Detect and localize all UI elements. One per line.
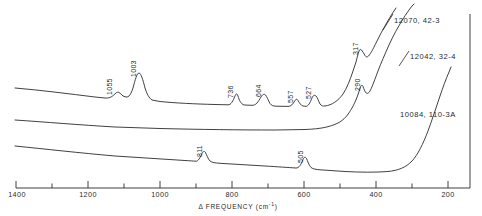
leader-line-12070-42-3 — [383, 14, 393, 30]
spectra-plot-area — [0, 0, 482, 216]
peak-label-317: 317 — [352, 42, 359, 55]
xtick-label-1000: 1000 — [151, 190, 169, 199]
leader-line-12042-32-4 — [399, 51, 409, 66]
peak-label-736: 736 — [227, 85, 234, 98]
peak-label-664: 664 — [255, 84, 262, 97]
trace-label-12042-32-4: 12042, 32-4 — [410, 52, 456, 61]
trace-label-10084-110-3a: 10084, 110-3A — [400, 110, 456, 119]
x-axis-title-text: Δ FREQUENCY (cm — [198, 203, 268, 210]
xtick-label-800: 800 — [225, 190, 238, 199]
xtick-label-600: 600 — [297, 190, 310, 199]
x-axis-major-ticks — [16, 181, 448, 188]
trace-label-12070-42-3: 12070, 42-3 — [394, 16, 440, 25]
xtick-label-1200: 1200 — [79, 190, 97, 199]
peak-label-290: 290 — [354, 78, 361, 91]
peak-label-1003: 1003 — [130, 60, 137, 77]
xtick-label-1400: 1400 — [8, 190, 26, 199]
x-axis-title: Δ FREQUENCY (cm-1) — [198, 201, 277, 210]
peak-label-505: 505 — [297, 150, 304, 163]
trace-path-10084-110-3a — [15, 67, 451, 172]
peak-label-557: 557 — [287, 90, 294, 103]
trace-path-12070-42-3 — [15, 8, 396, 106]
peak-label-811: 811 — [196, 145, 203, 157]
xtick-label-400: 400 — [369, 190, 382, 199]
xtick-label-200: 200 — [441, 190, 454, 199]
raman-spectra-figure: 1400 1200 1000 800 600 400 200 Δ FREQUEN… — [0, 0, 482, 216]
x-axis-title-tail: ) — [275, 203, 278, 210]
peak-label-527: 527 — [305, 86, 312, 99]
peak-label-1055: 1055 — [106, 78, 113, 95]
